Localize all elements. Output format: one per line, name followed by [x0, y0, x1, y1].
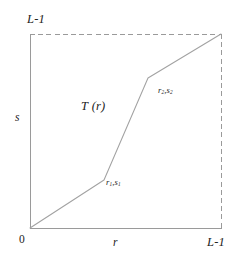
breakpoint-2-s-subscript: 2	[170, 89, 173, 95]
x-axis-max-label: L-1	[207, 236, 225, 249]
breakpoint-1-s-subscript: 1	[118, 181, 121, 187]
y-axis-label: s	[15, 112, 20, 124]
x-axis-label: r	[113, 237, 118, 249]
origin-label: 0	[19, 234, 25, 246]
function-name: T	[81, 99, 88, 113]
plot-canvas	[0, 0, 238, 261]
transformation-function-figure: L-1 s T(r) r1,s1 r2,s2 0 r L-1	[0, 0, 238, 261]
transformation-function-label: T(r)	[81, 100, 105, 113]
function-close-paren: )	[101, 99, 105, 113]
breakpoint-1-label: r1,s1	[106, 178, 121, 188]
transformation-curve	[30, 34, 221, 228]
y-axis-max-label: L-1	[27, 13, 45, 26]
breakpoint-2-label: r2,s2	[158, 86, 173, 96]
